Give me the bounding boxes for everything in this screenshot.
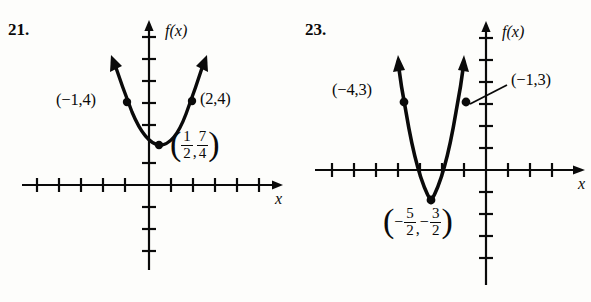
point-label-2-4: (2,4)	[200, 89, 231, 109]
vertex-y-denominator-21: 4	[197, 145, 209, 161]
point-neg1-3	[462, 98, 471, 107]
point-label-neg1-4: (−1,4)	[56, 90, 96, 110]
graph-21-canvas	[0, 0, 296, 302]
vertex-y-fraction-21: 7 4	[197, 129, 209, 161]
vertex-x-minus-23: −	[394, 213, 404, 231]
x-axis-arrow	[272, 180, 283, 189]
point-neg1-4	[123, 98, 131, 106]
point-neg4-3	[400, 98, 409, 107]
vertex-label-21: ( 1 2 , 7 4 )	[170, 128, 220, 162]
vertex-y-denominator-23: 2	[430, 222, 442, 238]
y-axis-arrow	[481, 21, 490, 32]
vertex-x-denominator-23: 2	[404, 222, 416, 238]
point-vertex-23	[427, 196, 436, 205]
vertex-x-fraction-21: 1 2	[181, 129, 193, 161]
y-axis-arrow	[144, 20, 153, 31]
callout-leader-line-neg1-3	[470, 85, 507, 104]
parabola-curve-23	[398, 62, 464, 201]
x-axis-label-21: x	[275, 190, 282, 208]
x-axis-label-23: x	[578, 175, 585, 193]
vertex-x-numerator-23: 5	[404, 206, 416, 221]
vertex-close-paren-23: )	[441, 204, 452, 238]
vertex-open-paren-23: (	[383, 204, 394, 238]
vertex-y-minus-23: −	[420, 213, 430, 231]
point-label-neg4-3: (−4,3)	[332, 80, 372, 100]
vertex-x-fraction-23: 5 2	[404, 206, 416, 238]
figure-21: 21.	[0, 0, 296, 302]
vertex-y-numerator-21: 7	[197, 129, 209, 144]
y-axis-label-21: f(x)	[165, 22, 187, 40]
point-label-neg1-3: (−1,3)	[511, 70, 551, 90]
x-axis-arrow	[573, 165, 585, 174]
point-2-4	[188, 97, 196, 105]
vertex-label-23: ( − 5 2 , − 3 2 )	[383, 205, 453, 239]
curve-arrow-left-23	[393, 55, 405, 72]
textbook-figure-page: 21.	[0, 0, 591, 302]
vertex-x-denominator-21: 2	[181, 145, 193, 161]
y-axis-label-23: f(x)	[502, 23, 524, 41]
figure-23: 23.	[295, 0, 591, 302]
vertex-y-fraction-23: 3 2	[430, 206, 442, 238]
vertex-close-paren-21: )	[208, 127, 219, 161]
vertex-y-numerator-23: 3	[430, 206, 442, 221]
curve-arrow-right-23	[458, 55, 469, 72]
point-vertex-21	[155, 141, 163, 149]
vertex-open-paren-21: (	[170, 127, 181, 161]
vertex-x-numerator-21: 1	[181, 129, 193, 144]
graph-23-canvas	[295, 0, 591, 302]
